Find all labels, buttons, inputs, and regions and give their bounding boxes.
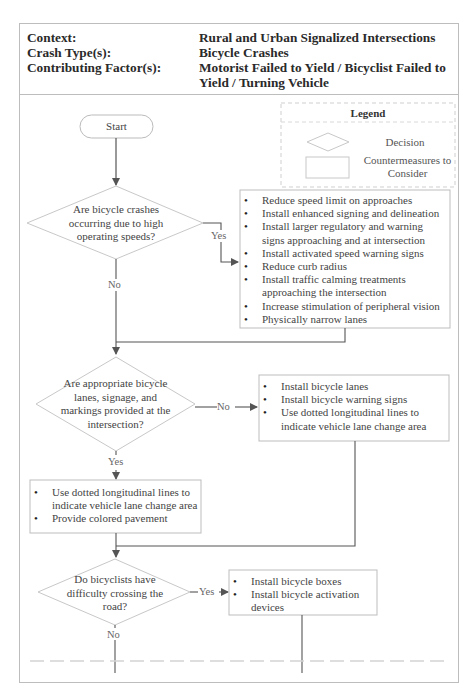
list-item: Install bicycle lanes <box>281 380 447 393</box>
connector-d1-yes-top <box>203 223 221 230</box>
decision-3-no-label: No <box>107 629 120 640</box>
list-item: Use dotted longitudinal lines to indicat… <box>281 406 447 432</box>
list-item: Install bicycle warning signs <box>281 393 447 406</box>
connector-box-1-merge <box>116 328 345 342</box>
decision-2-no-label: No <box>217 401 230 412</box>
list-item: Install traffic calming treatments appro… <box>262 273 448 299</box>
list-item: Increase stimulation of peripheral visio… <box>262 300 448 313</box>
decision-1-question: Are bicycle crashes occurring due to hig… <box>56 203 176 244</box>
list-item: Reduce speed limit on approaches <box>262 194 448 207</box>
legend-decision-label: Decision <box>355 136 455 149</box>
countermeasure-list-3: Use dotted longitudinal lines to indicat… <box>30 486 200 526</box>
list-item: Install bicycle activation devices <box>251 588 375 614</box>
legend-rectangle-icon <box>306 157 349 178</box>
decision-3-yes-label: Yes <box>199 586 214 597</box>
list-item: Install larger regulatory and warning si… <box>262 220 448 246</box>
list-item: Install activated speed warning signs <box>262 247 448 260</box>
decision-1-yes-label: Yes <box>211 230 226 241</box>
list-item: Use dotted longitudinal lines to indicat… <box>52 486 200 512</box>
countermeasure-list-2: Install bicycle lanes Install bicycle wa… <box>259 380 447 433</box>
legend-title: Legend <box>281 107 455 119</box>
list-item: Install enhanced signing and delineation <box>262 207 448 220</box>
list-item: Install bicycle boxes <box>251 575 375 588</box>
decision-2-yes-label: Yes <box>108 456 123 467</box>
countermeasure-list-4: Install bicycle boxes Install bicycle ac… <box>229 575 375 615</box>
decision-3-question: Do bicyclists have difficulty crossing t… <box>62 573 168 614</box>
start-label: Start <box>80 120 153 134</box>
list-item: Provide colored pavement <box>52 512 200 525</box>
legend-countermeasures-label: Countermeasures to Consider <box>360 154 455 180</box>
list-item: Physically narrow lanes <box>262 313 448 326</box>
countermeasure-list-1: Reduce speed limit on approaches Install… <box>240 194 448 326</box>
legend-diamond-icon <box>307 133 349 151</box>
decision-2-question: Are appropriate bicycle lanes, signage, … <box>58 377 173 431</box>
connector-d1-yes-bottom <box>221 242 238 262</box>
list-item: Reduce curb radius <box>262 260 448 273</box>
decision-1-no-label: No <box>108 279 121 290</box>
